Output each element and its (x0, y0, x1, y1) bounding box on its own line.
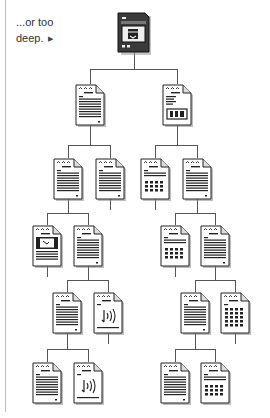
connector (68, 145, 69, 158)
text-document-icon (32, 362, 64, 406)
text-document-icon (95, 158, 127, 202)
connector (197, 145, 198, 158)
connector (110, 145, 111, 158)
table-document-icon (160, 225, 192, 269)
connector (175, 349, 176, 362)
caption-line-2: deep. (16, 32, 44, 44)
home-computer-icon (117, 12, 153, 56)
connector (155, 145, 156, 158)
connector (235, 280, 236, 292)
connector (215, 213, 216, 225)
table-document-icon (200, 362, 232, 406)
connector (90, 69, 178, 70)
caption: ...or too deep.▶ (16, 14, 53, 47)
text-document-icon (52, 292, 84, 336)
audio-document-icon (93, 292, 125, 336)
connector (47, 213, 48, 225)
connector (90, 69, 91, 84)
connector (88, 213, 89, 225)
connector (108, 280, 109, 292)
text-document-icon (160, 362, 192, 406)
connector (195, 280, 196, 292)
connector (215, 349, 216, 362)
connector (67, 280, 109, 281)
connector (47, 349, 48, 362)
video-document-icon (32, 225, 64, 269)
text-document-icon (53, 158, 85, 202)
triangle-right-icon: ▶ (48, 35, 53, 42)
audio-document-icon (73, 362, 105, 406)
margin-rule (5, 0, 6, 412)
text-document-icon (180, 292, 212, 336)
connector (88, 349, 89, 362)
caption-line-1: ...or too (16, 16, 53, 28)
connector (175, 213, 176, 225)
grid-document-icon (220, 292, 252, 336)
text-document-icon (73, 225, 105, 269)
table-document-icon (140, 158, 172, 202)
text-document-icon (200, 225, 232, 269)
connector (177, 69, 178, 84)
connector (175, 349, 216, 350)
image-document-icon (162, 84, 194, 128)
connector (67, 280, 68, 292)
connector (47, 213, 89, 214)
connector (47, 349, 89, 350)
connector (155, 145, 198, 146)
text-document-icon (182, 158, 214, 202)
connector (175, 213, 216, 214)
text-document-icon (75, 84, 107, 128)
connector (195, 280, 236, 281)
connector (68, 145, 111, 146)
